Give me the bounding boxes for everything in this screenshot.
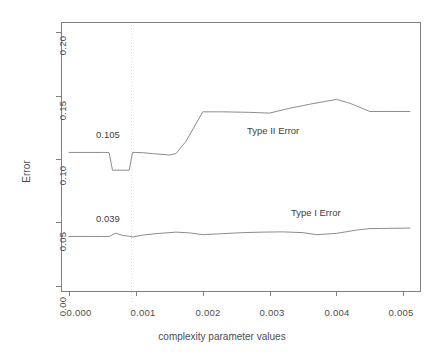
type-i-error-label: Type I Error xyxy=(291,207,341,218)
x-tick-label-3: 0.003 xyxy=(256,307,288,318)
type-ii-value-label: 0.105 xyxy=(96,129,120,140)
plot-frame xyxy=(62,23,421,292)
y-tick-label-1: 0.05 xyxy=(57,227,68,257)
x-tick-label-4: 0.004 xyxy=(321,307,353,318)
x-tick-label-5: 0.005 xyxy=(385,307,417,318)
y-tick-label-3: 0.15 xyxy=(57,96,68,126)
x-tick-label-2: 0.002 xyxy=(192,307,224,318)
type-ii-error-label: Type II Error xyxy=(247,125,299,136)
series-line-type-i-error xyxy=(69,228,410,237)
x-tick-label-0: 0.000 xyxy=(63,307,95,318)
type-i-value-label: 0.039 xyxy=(96,213,120,224)
y-tick-label-4: 0.20 xyxy=(57,31,68,61)
x-tick-label-1: 0.001 xyxy=(127,307,159,318)
series-line-type-ii-error xyxy=(69,99,410,170)
y-tick-label-2: 0.10 xyxy=(57,161,68,191)
chart-figure: 0.00 0.05 0.10 0.15 0.20 0.000 0.001 0.0… xyxy=(0,0,445,357)
y-axis-title: Error xyxy=(21,157,32,187)
x-axis-title: complexity parameter values xyxy=(122,331,322,342)
